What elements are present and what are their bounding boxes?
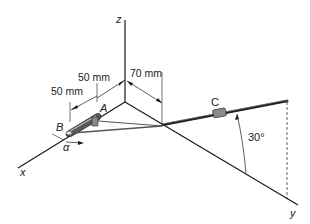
point-label-b: B bbox=[56, 121, 63, 133]
x-axis-label: x bbox=[19, 166, 26, 178]
arrowhead bbox=[127, 81, 133, 86]
angle-arc-30 bbox=[237, 114, 246, 173]
y-axis-label: y bbox=[289, 207, 297, 219]
z-axis-label: z bbox=[115, 13, 122, 25]
point-label-a: A bbox=[99, 102, 107, 114]
angle-label-30: 30° bbox=[248, 131, 265, 143]
alpha-reference-line bbox=[52, 134, 64, 140]
dimension-line-70mm bbox=[127, 81, 162, 103]
arrowhead bbox=[78, 141, 84, 145]
angle-label-alpha: α bbox=[63, 141, 70, 153]
crank-ab bbox=[66, 113, 101, 136]
dimension-label-50mm-upper: 50 mm bbox=[78, 71, 110, 83]
dimension-label-70mm: 70 mm bbox=[130, 67, 162, 79]
dimension-label-50mm-lower: 50 mm bbox=[51, 85, 83, 97]
collar-c bbox=[212, 108, 226, 118]
arrowhead bbox=[156, 98, 162, 103]
arrowhead bbox=[71, 105, 78, 110]
arrowhead bbox=[119, 80, 125, 86]
point-label-c: C bbox=[211, 96, 219, 108]
connecting-rod-upper bbox=[98, 121, 162, 126]
arrowhead bbox=[235, 114, 239, 120]
y-axis bbox=[125, 102, 298, 205]
mechanism-diagram: z x y 50 mm 50 mm 70 mm A B C α bbox=[0, 0, 310, 224]
